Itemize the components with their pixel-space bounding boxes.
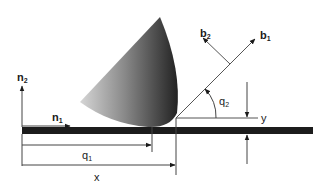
- b1-axis-arrow: [176, 39, 255, 118]
- b2-axis-arrow: [203, 38, 230, 64]
- ground-bar: [22, 127, 313, 134]
- cone-shape: [80, 17, 178, 127]
- cone-contact-diagram: n2 n1 b1 b2 y q2 q1 x: [0, 0, 328, 186]
- q1-label: q1: [82, 149, 92, 162]
- n2-label: n2: [17, 71, 28, 84]
- b1-label: b1: [260, 29, 271, 42]
- q2-angle-arc: [205, 89, 216, 118]
- y-label: y: [261, 112, 267, 124]
- x-label: x: [94, 171, 100, 183]
- q2-label: q2: [219, 95, 229, 108]
- n1-label: n1: [52, 111, 63, 124]
- b2-label: b2: [200, 27, 211, 40]
